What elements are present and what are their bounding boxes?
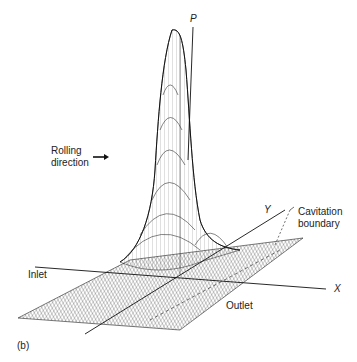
p-axis-label: P xyxy=(190,13,197,24)
y-axis-label: Y xyxy=(264,204,271,215)
cavitation-label-line1: Cavitation xyxy=(298,206,342,218)
panel-label: (b) xyxy=(17,340,29,352)
rolling-direction-label: Rolling direction xyxy=(51,145,89,169)
cavitation-label-line2: boundary xyxy=(298,218,342,230)
x-axis-label: X xyxy=(334,283,341,294)
outlet-label: Outlet xyxy=(226,300,253,312)
arrow-right-icon xyxy=(93,154,109,160)
pressure-peak-surface xyxy=(120,30,240,275)
inlet-label: Inlet xyxy=(28,269,47,281)
rolling-label-line2: direction xyxy=(51,157,89,169)
cavitation-boundary-label: Cavitation boundary xyxy=(298,206,342,230)
pressure-mesh-plot xyxy=(0,0,357,362)
rolling-label-line1: Rolling xyxy=(51,145,89,157)
